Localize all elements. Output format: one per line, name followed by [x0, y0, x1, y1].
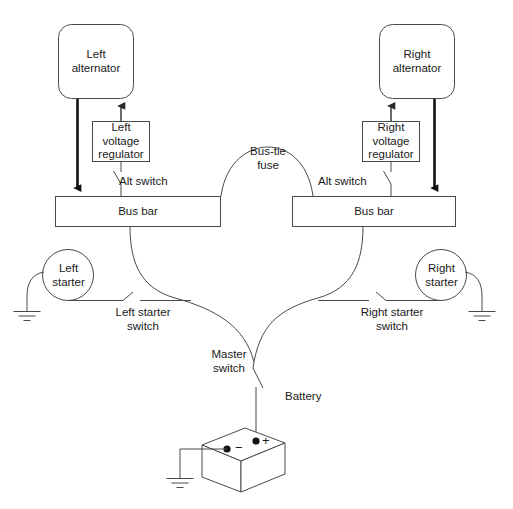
right-alt-switch-label: Alt switch: [318, 175, 398, 189]
left-starter-switch-label: Left starterswitch: [91, 306, 195, 333]
right-starter-circle: [416, 250, 467, 301]
electrical-system-diagram: Leftalternator Rightalternator Leftvolta…: [0, 0, 513, 509]
battery-positive-terminal: [252, 437, 259, 444]
left-alternator-box: [59, 25, 134, 99]
battery-positive-sign: +: [262, 434, 276, 448]
left-bus-bar-box: [56, 197, 221, 227]
right-bus-bar-box: [293, 197, 456, 227]
left-voltage-regulator-box: [93, 122, 150, 162]
left-alt-switch-label: Alt switch: [119, 175, 199, 189]
wiring-schematic-svg: [0, 0, 513, 509]
right-starter-switch-label: Right starterswitch: [337, 306, 447, 333]
right-bus-to-master-curve: [253, 226, 363, 368]
master-switch-label: Masterswitch: [197, 348, 261, 375]
bus-tie-fuse-label: Bus-tiefuse: [222, 145, 314, 172]
battery-label: Battery: [285, 390, 345, 404]
left-starter-switch-blade: [123, 292, 133, 301]
left-bus-to-master-curve: [130, 226, 254, 362]
cropped-caption-strip: [0, 493, 513, 509]
right-starter-ground-lead: [465, 272, 482, 311]
left-starter-circle: [43, 250, 94, 301]
right-starter-switch-blade: [376, 292, 386, 301]
right-voltage-regulator-box: [363, 122, 420, 162]
right-alternator-box: [380, 25, 455, 99]
left-starter-ground-lead: [27, 272, 44, 311]
battery-negative-sign: −: [235, 441, 249, 455]
